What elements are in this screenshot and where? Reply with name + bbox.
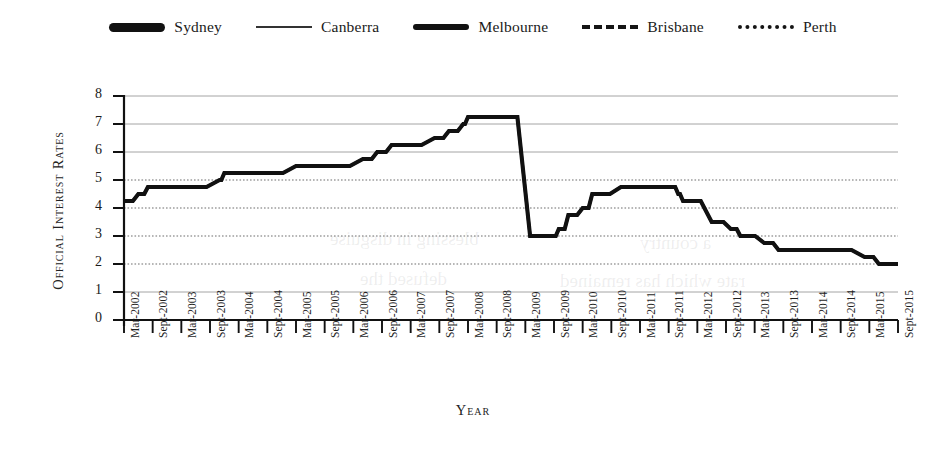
- chart-svg-canvas: [0, 0, 946, 451]
- data-series-group: [124, 117, 898, 264]
- x-tick-marks-group: [124, 320, 898, 333]
- y-tick-label: 4: [82, 198, 102, 214]
- y-tick-label: 7: [82, 114, 102, 130]
- y-tick-label: 6: [82, 142, 102, 158]
- y-tick-label: 5: [82, 170, 102, 186]
- y-tick-label: 0: [82, 310, 102, 326]
- data-line-melbourne: [124, 117, 898, 264]
- data-line-perth: [124, 117, 898, 264]
- x-axis-title-text: Year: [456, 402, 490, 418]
- y-tick-label: 1: [82, 282, 102, 298]
- axis-lines-group: [118, 95, 898, 326]
- y-tick-label: 3: [82, 226, 102, 242]
- chart-plot-area: Mar-2002Sept-2002Mar-2003Sept-2003Mar-20…: [0, 0, 946, 451]
- x-axis-title: Year: [0, 402, 946, 419]
- y-tick-label: 2: [82, 254, 102, 270]
- gridlines-group: [124, 96, 898, 320]
- data-line-brisbane: [124, 117, 898, 264]
- data-line-canberra: [124, 117, 898, 264]
- y-tick-label: 8: [82, 86, 102, 102]
- data-line-sydney: [124, 117, 898, 264]
